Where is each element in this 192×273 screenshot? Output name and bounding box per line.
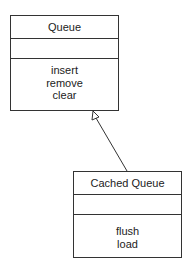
operation: flush <box>74 225 181 238</box>
operations-compartment: insert remove clear <box>11 59 118 102</box>
class-name: Cached Queue <box>74 172 181 195</box>
class-cached-queue: Cached Queue flush load <box>73 171 182 258</box>
hollow-triangle-arrowhead-icon <box>92 111 99 120</box>
attributes-compartment <box>74 195 181 215</box>
operation: insert <box>11 64 118 77</box>
class-name: Queue <box>11 16 118 39</box>
operation: load <box>74 238 181 251</box>
class-queue: Queue insert remove clear <box>10 15 119 111</box>
operation: clear <box>11 89 118 102</box>
attributes-compartment <box>11 39 118 59</box>
operations-compartment: flush load <box>74 215 181 250</box>
operation: remove <box>11 77 118 90</box>
